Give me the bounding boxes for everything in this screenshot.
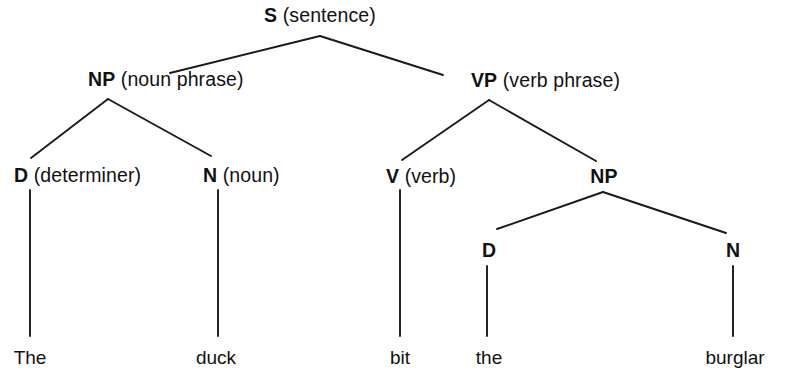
node-n-object: N bbox=[726, 241, 740, 261]
terminal-bit: bit bbox=[390, 348, 410, 367]
branch-vp-to-v bbox=[402, 100, 489, 160]
tree-branch-lines bbox=[0, 0, 787, 386]
node-s: S (sentence) bbox=[264, 6, 376, 26]
branch-s-to-vp bbox=[320, 36, 443, 75]
node-vp: VP (verb phrase) bbox=[471, 71, 620, 91]
node-d-subject: D (determiner) bbox=[14, 166, 141, 186]
terminal-burglar: burglar bbox=[705, 348, 764, 367]
node-vp-gloss: (verb phrase) bbox=[497, 69, 620, 91]
branch-np-to-n bbox=[108, 99, 211, 156]
node-v-category: V bbox=[386, 165, 399, 187]
branch-np-object-to-d bbox=[497, 192, 603, 229]
branch-np-object-to-n bbox=[603, 192, 726, 233]
node-n-object-category: N bbox=[726, 239, 740, 261]
node-s-gloss: (sentence) bbox=[277, 4, 376, 26]
node-d-object: D bbox=[482, 241, 496, 261]
branch-np-to-d bbox=[31, 99, 108, 158]
node-n-subject-category: N bbox=[203, 164, 217, 186]
node-vp-category: VP bbox=[471, 69, 497, 91]
node-s-category: S bbox=[264, 4, 277, 26]
branch-vp-to-np bbox=[489, 100, 596, 161]
node-d-object-category: D bbox=[482, 239, 496, 261]
node-np-subject: NP (noun phrase) bbox=[88, 70, 244, 90]
node-n-subject-gloss: (noun) bbox=[217, 164, 280, 186]
node-np-object: NP bbox=[590, 167, 617, 187]
terminal-the-subject: The bbox=[14, 348, 47, 367]
node-np-subject-gloss: (noun phrase) bbox=[115, 68, 243, 90]
terminal-duck: duck bbox=[196, 348, 236, 367]
node-np-object-category: NP bbox=[590, 165, 617, 187]
node-d-subject-category: D bbox=[14, 164, 28, 186]
node-v: V (verb) bbox=[386, 167, 456, 187]
node-n-subject: N (noun) bbox=[203, 166, 280, 186]
syntax-tree-diagram: S (sentence) NP (noun phrase) VP (verb p… bbox=[0, 0, 787, 386]
node-v-gloss: (verb) bbox=[399, 165, 456, 187]
node-np-subject-category: NP bbox=[88, 68, 115, 90]
node-d-subject-gloss: (determiner) bbox=[28, 164, 141, 186]
terminal-the-object: the bbox=[476, 348, 502, 367]
